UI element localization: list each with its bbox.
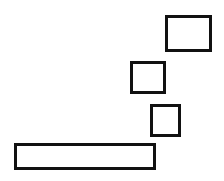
rectangle-middle-left [130, 61, 166, 94]
rectangle-top-right [165, 15, 212, 52]
rectangle-middle-right [150, 104, 181, 137]
rectangle-bottom-wide [14, 143, 156, 170]
diagram-canvas [0, 0, 224, 181]
